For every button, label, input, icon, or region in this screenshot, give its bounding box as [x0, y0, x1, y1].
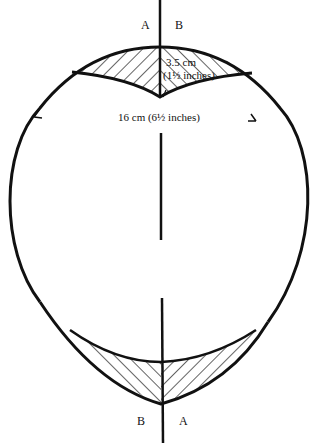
label-b-bottom: B	[137, 414, 145, 428]
width-label: 16 cm (6½ inches)	[118, 111, 200, 124]
dart-depth-inches: (1½ inches)	[163, 69, 215, 82]
label-a-top: A	[141, 18, 150, 32]
pattern-diagram: A B 3.5 cm (1½ inches) 16 cm (6½ inches)…	[0, 0, 319, 443]
dart-depth-cm: 3.5 cm	[166, 56, 196, 68]
label-a-bottom: A	[179, 414, 188, 428]
label-b-top: B	[175, 18, 183, 32]
notch-right	[248, 114, 256, 121]
bottom-dart	[40, 302, 268, 404]
top-dart	[72, 47, 252, 97]
